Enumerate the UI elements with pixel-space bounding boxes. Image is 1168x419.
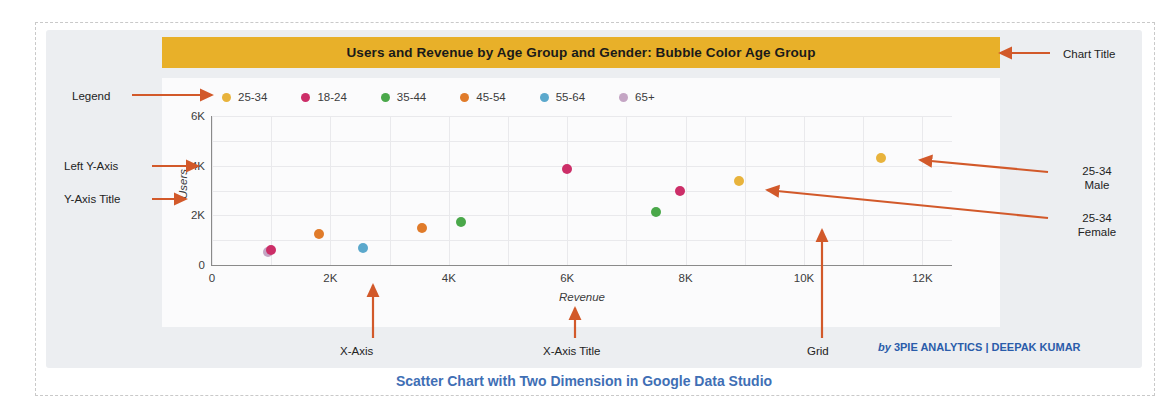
legend-swatch-icon	[460, 93, 469, 102]
grid-line-horizontal	[212, 215, 952, 216]
screenshot-root: Users and Revenue by Age Group and Gende…	[0, 0, 1168, 419]
x-axis-line	[211, 265, 952, 266]
annotation-legend: Legend	[72, 89, 110, 103]
x-axis-tick-label: 12K	[912, 272, 932, 284]
grid-line-horizontal	[212, 141, 952, 142]
grid-line-vertical	[508, 116, 509, 265]
y-axis-tick-label: 4K	[191, 160, 205, 172]
data-point[interactable]	[358, 243, 368, 253]
grid-line-vertical	[804, 116, 805, 265]
chart-legend[interactable]: 25-3418-2435-4445-5455-6465+	[222, 88, 689, 106]
scatter-plot-area[interactable]: 02K4K6K 02K4K6K8K10K12K Revenue Users	[212, 116, 952, 265]
legend-item-55-64[interactable]: 55-64	[540, 91, 585, 103]
legend-item-label: 35-44	[397, 91, 426, 103]
annotation-x-axis: X-Axis	[340, 344, 373, 358]
legend-item-45-54[interactable]: 45-54	[460, 91, 505, 103]
x-axis-tick-label: 6K	[560, 272, 574, 284]
x-axis-tick-label: 8K	[679, 272, 693, 284]
grid-lines	[212, 116, 952, 265]
legend-item-65-[interactable]: 65+	[619, 91, 655, 103]
attribution-text: 3PIE ANALYTICS | DEEPAK KUMAR	[894, 341, 1081, 353]
annotation-point-male-line2: Male	[1085, 179, 1110, 191]
x-axis-title: Revenue	[559, 291, 605, 303]
grid-line-vertical	[922, 116, 923, 265]
grid-line-horizontal	[212, 166, 952, 167]
annotation-point-female: 25-34 Female	[1057, 211, 1137, 239]
grid-line-vertical	[271, 116, 272, 265]
chart-title-bar[interactable]: Users and Revenue by Age Group and Gende…	[162, 37, 1000, 68]
y-axis-line	[211, 116, 212, 266]
data-point[interactable]	[266, 245, 276, 255]
grid-line-vertical	[863, 116, 864, 265]
grid-line-horizontal	[212, 191, 952, 192]
legend-item-35-44[interactable]: 35-44	[381, 91, 426, 103]
x-axis-tick-label: 2K	[323, 272, 337, 284]
legend-item-18-24[interactable]: 18-24	[301, 91, 346, 103]
attribution: by 3PIE ANALYTICS | DEEPAK KUMAR	[878, 341, 1081, 353]
data-point[interactable]	[675, 186, 685, 196]
annotation-left-y-axis: Left Y-Axis	[64, 159, 118, 173]
legend-swatch-icon	[222, 93, 231, 102]
legend-swatch-icon	[381, 93, 390, 102]
annotation-y-axis-title: Y-Axis Title	[64, 192, 120, 206]
data-point[interactable]	[734, 176, 744, 186]
x-axis-tick-label: 0	[209, 272, 215, 284]
grid-line-vertical	[686, 116, 687, 265]
grid-line-horizontal	[212, 116, 952, 117]
annotation-point-female-line2: Female	[1078, 226, 1116, 238]
legend-item-label: 18-24	[317, 91, 346, 103]
data-point[interactable]	[876, 153, 886, 163]
legend-item-label: 55-64	[556, 91, 585, 103]
attribution-prefix: by	[878, 341, 891, 353]
legend-swatch-icon	[619, 93, 628, 102]
grid-line-vertical	[626, 116, 627, 265]
data-point[interactable]	[456, 217, 466, 227]
annotation-point-male: 25-34 Male	[1057, 164, 1137, 192]
annotation-chart-title: Chart Title	[1063, 47, 1115, 61]
annotation-point-male-line1: 25-34	[1082, 165, 1111, 177]
data-point[interactable]	[562, 164, 572, 174]
annotation-x-axis-title: X-Axis Title	[543, 344, 601, 358]
legend-item-25-34[interactable]: 25-34	[222, 91, 267, 103]
legend-item-label: 25-34	[238, 91, 267, 103]
legend-swatch-icon	[540, 93, 549, 102]
data-point[interactable]	[417, 223, 427, 233]
data-point[interactable]	[651, 207, 661, 217]
grid-line-vertical	[567, 116, 568, 265]
grid-line-vertical	[390, 116, 391, 265]
y-axis-tick-label: 6K	[191, 110, 205, 122]
x-axis-tick-label: 10K	[794, 272, 814, 284]
data-point[interactable]	[314, 229, 324, 239]
legend-item-label: 45-54	[476, 91, 505, 103]
page-caption: Scatter Chart with Two Dimension in Goog…	[0, 373, 1168, 389]
legend-item-label: 65+	[635, 91, 655, 103]
page-title: Users and Revenue by Age Group and Gende…	[346, 45, 815, 60]
grid-line-vertical	[330, 116, 331, 265]
annotation-point-female-line1: 25-34	[1082, 212, 1111, 224]
grid-line-vertical	[745, 116, 746, 265]
y-axis-title: Users	[177, 169, 189, 199]
legend-swatch-icon	[301, 93, 310, 102]
grid-line-vertical	[449, 116, 450, 265]
annotation-grid: Grid	[807, 344, 829, 358]
x-axis-tick-label: 4K	[442, 272, 456, 284]
y-axis-tick-label: 2K	[191, 209, 205, 221]
y-axis-tick-label: 0	[199, 259, 205, 271]
grid-line-horizontal	[212, 240, 952, 241]
grid-line-vertical	[212, 116, 213, 265]
